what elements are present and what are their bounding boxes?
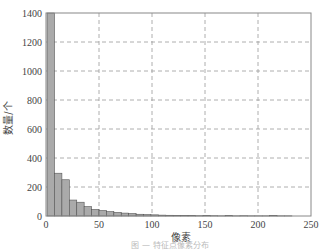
histogram-bar [77, 202, 84, 216]
y-tick-label: 600 [27, 124, 42, 135]
y-tick-label: 1200 [22, 37, 42, 48]
y-tick-label: 200 [27, 182, 42, 193]
histogram-bar [92, 209, 99, 216]
grid-lines [46, 13, 311, 216]
x-tick-label: 200 [251, 219, 266, 230]
y-tick-label: 1400 [22, 8, 42, 19]
histogram-bar [69, 200, 76, 216]
x-tick-label: 100 [145, 219, 160, 230]
histogram-bar [106, 212, 113, 216]
x-tick-label: 50 [94, 219, 104, 230]
x-tick-label: 0 [44, 219, 49, 230]
plot-frame [46, 13, 311, 216]
y-axis-label: 数量/个 [2, 101, 14, 134]
histogram-bar [54, 173, 61, 216]
x-axis-ticks: 050100150200250 [44, 219, 319, 230]
histogram-bar [84, 207, 91, 216]
y-axis-ticks: 0200400600800100012001400 [22, 8, 42, 222]
y-tick-label: 0 [37, 211, 42, 222]
histogram-bar [99, 210, 106, 216]
y-tick-label: 400 [27, 153, 42, 164]
histogram-bar [47, 13, 54, 216]
y-tick-label: 800 [27, 95, 42, 106]
histogram-chart: 0200400600800100012001400 05010015020025… [0, 0, 323, 250]
histogram-bars [47, 13, 292, 216]
histogram-bar [62, 180, 69, 216]
histogram-bar [114, 212, 121, 216]
y-tick-label: 1000 [22, 66, 42, 77]
x-tick-label: 250 [304, 219, 319, 230]
figure-caption: 图 — 特征点像素分布 [131, 240, 208, 250]
x-tick-label: 150 [198, 219, 213, 230]
